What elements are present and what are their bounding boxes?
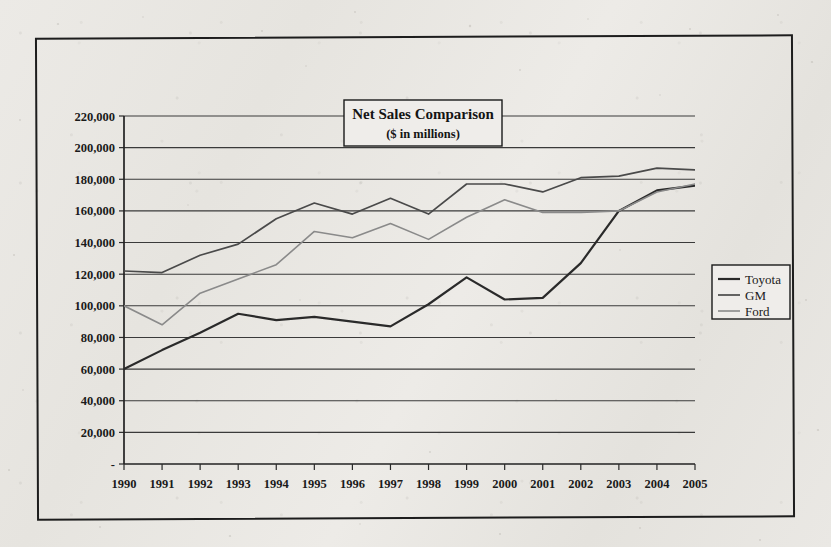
y-axis-tick-label: 160,000 <box>74 204 115 218</box>
x-axis-tick-label: 1994 <box>264 477 290 491</box>
series-line-gm <box>124 168 695 272</box>
x-axis-tick-label: 1990 <box>112 477 137 491</box>
y-axis-tick-label: 140,000 <box>74 236 115 250</box>
chart-title-box: Net Sales Comparison ($ in millions) <box>344 100 502 146</box>
x-axis-tick-label: 2005 <box>683 477 708 491</box>
x-axis-tick-label: 2002 <box>568 477 593 491</box>
x-axis-ticks <box>124 464 695 470</box>
x-axis-tick-label: 1995 <box>302 477 327 491</box>
y-axis-tick-label: 180,000 <box>74 173 115 187</box>
x-axis-tick-label: 1999 <box>454 477 479 491</box>
x-axis-tick-label: 1991 <box>150 477 175 491</box>
net-sales-line-chart: 220,000200,000180,000160,000140,000120,0… <box>0 0 831 547</box>
y-axis-tick-label: 220,000 <box>74 110 115 124</box>
x-axis-tick-label: 2004 <box>644 477 670 491</box>
y-axis-tick-label: 40,000 <box>81 394 115 408</box>
x-axis-tick-label: 1998 <box>416 477 441 491</box>
legend-label-ford: Ford <box>745 304 770 319</box>
legend-label-gm: GM <box>745 288 766 303</box>
data-series-group <box>124 168 695 369</box>
y-axis-labels: 220,000200,000180,000160,000140,000120,0… <box>74 110 115 472</box>
y-axis-tick-label: 80,000 <box>81 331 115 345</box>
gridlines <box>124 116 695 432</box>
chart-subtitle: ($ in millions) <box>386 127 460 141</box>
y-axis-tick-label: 200,000 <box>74 141 115 155</box>
x-axis-tick-label: 1992 <box>188 477 213 491</box>
y-axis-tick-label: - <box>111 458 115 472</box>
x-axis-tick-label: 2000 <box>492 477 517 491</box>
series-line-toyota <box>124 186 695 369</box>
legend-label-toyota: Toyota <box>745 272 781 287</box>
x-axis-tick-label: 1997 <box>378 477 403 491</box>
x-axis-tick-label: 2001 <box>530 477 555 491</box>
x-axis-tick-label: 2003 <box>606 477 631 491</box>
y-axis-tick-label: 120,000 <box>74 268 115 282</box>
y-axis-tick-label: 60,000 <box>81 363 115 377</box>
x-axis-tick-label: 1996 <box>340 477 365 491</box>
chart-title: Net Sales Comparison <box>352 106 494 122</box>
x-axis-labels: 1990199119921993199419951996199719981999… <box>112 477 708 491</box>
series-line-ford <box>124 184 695 325</box>
x-axis-tick-label: 1993 <box>226 477 251 491</box>
y-axis-tick-label: 100,000 <box>74 299 115 313</box>
y-axis-tick-label: 20,000 <box>81 426 115 440</box>
